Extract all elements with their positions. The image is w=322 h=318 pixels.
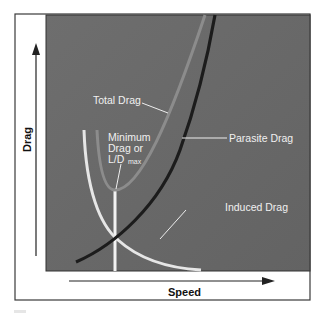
total-drag-label: Total Drag [93,94,141,106]
parasite-drag-label: Parasite Drag [229,132,293,144]
x-axis-label: Speed [168,286,201,298]
min-drag-label-line3: L/D [108,153,125,165]
drag-vs-speed-diagram: Total Drag Parasite Drag Induced Drag Mi… [0,0,322,318]
induced-drag-label: Induced Drag [225,201,288,213]
caption-remnant [14,310,26,313]
min-drag-label-subscript: max [128,158,142,165]
y-axis-label: Drag [21,127,33,152]
